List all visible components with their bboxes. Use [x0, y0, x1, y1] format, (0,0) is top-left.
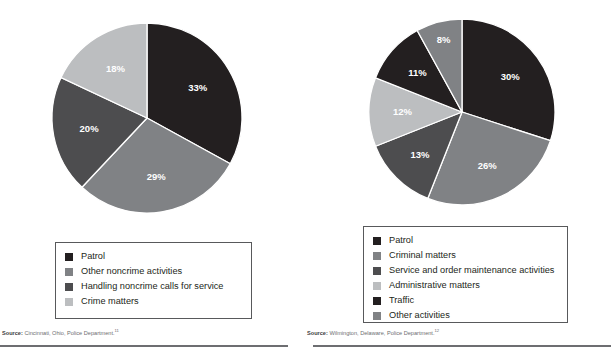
legend-label-patrol: Patrol: [81, 251, 105, 262]
panel-cincinnati: 33%29%20%18% Patrol Other noncrime activ…: [0, 0, 305, 353]
pie-chart-wilmington: 30%26%13%12%11%8%: [305, 0, 611, 220]
pie-slice-label: 11%: [408, 67, 427, 78]
source-note-wilmington: Source: Wilmington, Delaware, Police Dep…: [307, 327, 439, 337]
legend-swatch-traffic: [373, 297, 381, 305]
legend-swatch-patrol: [373, 237, 381, 245]
legend-item[interactable]: Criminal matters: [373, 248, 558, 263]
figure-container: 33%29%20%18% Patrol Other noncrime activ…: [0, 0, 611, 353]
legend-label-patrol: Patrol: [389, 235, 413, 246]
legend-item[interactable]: Other activities: [373, 308, 558, 323]
pie-slice-label: 26%: [478, 160, 498, 171]
legend-swatch-service-and-order-maintenance: [373, 267, 381, 275]
legend-label-crime-matters: Crime matters: [81, 296, 139, 307]
source-footnote-marker: 12: [434, 328, 439, 333]
legend-label-traffic: Traffic: [389, 295, 414, 306]
pie-slice-label: 12%: [393, 106, 413, 117]
pie-slice-label: 20%: [80, 123, 100, 134]
legend-label-service-and-order-maintenance: Service and order maintenance activities: [389, 265, 554, 276]
source-footnote-marker: 11: [115, 328, 119, 333]
source-prefix: Source:: [2, 330, 23, 336]
legend-label-other-activities: Other activities: [389, 310, 450, 321]
source-text: Cincinnati, Ohio, Police Department.: [24, 330, 114, 336]
legend-item[interactable]: Patrol: [65, 249, 242, 264]
pie-slice-label: 8%: [437, 34, 451, 45]
legend-swatch-other-noncrime-activities: [65, 268, 73, 276]
legend-label-administrative-matters: Administrative matters: [389, 280, 480, 291]
pie-slice-label: 13%: [410, 149, 430, 160]
source-note-cincinnati: Source: Cincinnati, Ohio, Police Departm…: [2, 327, 119, 337]
legend-item[interactable]: Other noncrime activities: [65, 264, 242, 279]
pie-chart-cincinnati-svg: 33%29%20%18%: [0, 0, 305, 232]
legend-label-criminal-matters: Criminal matters: [389, 250, 456, 261]
pie-slice-label: 30%: [501, 71, 521, 82]
legend-wilmington: Patrol Criminal matters Service and orde…: [363, 226, 568, 323]
legend-item[interactable]: Service and order maintenance activities: [373, 263, 558, 278]
bottom-rule-right: [313, 345, 611, 347]
bottom-rule-left: [0, 345, 288, 347]
legend-cincinnati: Patrol Other noncrime activities Handlin…: [55, 242, 252, 319]
source-text: Wilmington, Delaware, Police Department.: [329, 330, 434, 336]
legend-swatch-criminal-matters: [373, 252, 381, 260]
legend-swatch-handling-noncrime-calls: [65, 283, 73, 291]
legend-item[interactable]: Handling noncrime calls for service: [65, 279, 242, 294]
pie-slice-label: 18%: [106, 63, 126, 74]
legend-item[interactable]: Crime matters: [65, 294, 242, 309]
pie-slice-label: 29%: [147, 171, 167, 182]
legend-swatch-patrol: [65, 253, 73, 261]
legend-item[interactable]: Patrol: [373, 233, 558, 248]
pie-slice-label: 33%: [188, 82, 208, 93]
legend-item[interactable]: Administrative matters: [373, 278, 558, 293]
panel-wilmington: 30%26%13%12%11%8% Patrol Criminal matter…: [305, 0, 611, 353]
legend-label-handling-noncrime-calls: Handling noncrime calls for service: [81, 281, 223, 292]
legend-swatch-administrative-matters: [373, 282, 381, 290]
legend-item[interactable]: Traffic: [373, 293, 558, 308]
legend-swatch-other-activities: [373, 312, 381, 320]
pie-chart-cincinnati: 33%29%20%18%: [0, 0, 305, 232]
legend-label-other-noncrime-activities: Other noncrime activities: [81, 266, 182, 277]
pie-chart-wilmington-svg: 30%26%13%12%11%8%: [305, 0, 611, 220]
source-prefix: Source:: [307, 330, 328, 336]
legend-swatch-crime-matters: [65, 298, 73, 306]
